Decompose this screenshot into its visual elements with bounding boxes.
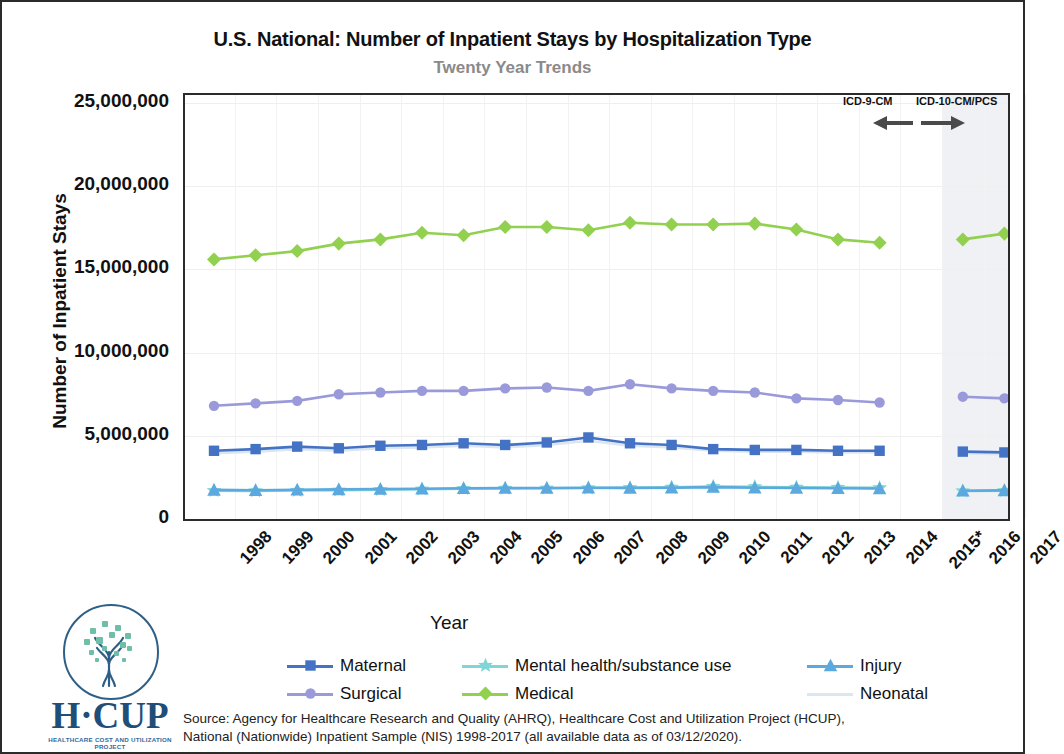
data-point-marker — [833, 446, 843, 456]
data-point-marker — [833, 395, 843, 405]
data-point-marker — [824, 659, 838, 672]
data-point-marker — [583, 386, 593, 396]
legend-glyph-diamond-icon — [477, 685, 494, 702]
data-point-marker — [458, 438, 468, 448]
legend-glyph-circle-icon — [302, 685, 319, 702]
chart-legend: MaternalMental health/substance useInjur… — [287, 655, 1017, 707]
data-point-marker — [750, 445, 760, 455]
series-line — [963, 397, 1005, 399]
legend-glyph-square-icon — [302, 657, 319, 674]
data-point-marker — [831, 232, 845, 246]
data-point-marker — [334, 389, 344, 399]
legend-item-surgical[interactable]: Surgical — [287, 683, 401, 705]
data-point-marker — [305, 660, 315, 670]
data-point-marker — [791, 445, 801, 455]
chart-subtitle: Twenty Year Trends — [0, 58, 1025, 78]
data-point-marker — [540, 220, 554, 234]
data-point-marker — [708, 386, 718, 396]
hcup-wordmark: H·CUP — [35, 696, 185, 736]
data-point-marker — [956, 232, 970, 246]
data-point-marker — [500, 440, 510, 450]
legend-label: Injury — [860, 656, 902, 676]
data-point-marker — [292, 441, 302, 451]
data-point-marker — [458, 386, 468, 396]
series-surgical — [209, 379, 1008, 411]
legend-item-injury[interactable]: Injury — [807, 655, 902, 677]
data-point-marker — [625, 379, 635, 389]
data-point-marker — [305, 688, 315, 698]
data-point-marker — [583, 432, 593, 442]
series-line — [963, 234, 1005, 240]
data-point-marker — [665, 217, 679, 231]
hcup-tagline: HEALTHCARE COST AND UTILIZATION PROJECT — [35, 736, 185, 750]
x-axis-title: Year — [430, 612, 468, 634]
data-point-marker — [250, 398, 260, 408]
data-point-marker — [209, 446, 219, 456]
source-note: Source: Agency for Healthcare Research a… — [183, 710, 1018, 746]
data-point-marker — [417, 386, 427, 396]
y-axis-tick-label: 20,000,000 — [0, 173, 169, 195]
legend-label: Mental health/substance use — [515, 656, 731, 676]
data-point-marker — [706, 217, 720, 231]
y-axis-tick-label: 5,000,000 — [0, 423, 169, 445]
legend-label: Maternal — [340, 656, 406, 676]
legend-marker-icon — [287, 685, 333, 703]
legend-marker-icon — [807, 657, 853, 675]
data-point-marker — [748, 217, 762, 231]
data-point-marker — [997, 227, 1008, 241]
data-point-marker — [958, 391, 968, 401]
data-point-marker — [999, 393, 1008, 403]
data-point-marker — [498, 220, 512, 234]
data-point-marker — [791, 393, 801, 403]
series-medical — [207, 216, 1008, 267]
data-point-marker — [873, 236, 887, 250]
legend-item-medical[interactable]: Medical — [462, 683, 574, 705]
legend-label: Surgical — [340, 684, 401, 704]
data-point-marker — [334, 443, 344, 453]
data-point-marker — [478, 658, 493, 672]
legend-label: Neonatal — [860, 684, 928, 704]
data-point-marker — [373, 232, 387, 246]
legend-label: Medical — [515, 684, 574, 704]
data-point-marker — [249, 248, 263, 262]
data-point-marker — [666, 440, 676, 450]
data-point-marker — [292, 396, 302, 406]
legend-item-maternal[interactable]: Maternal — [287, 655, 406, 677]
y-axis-tick-label: 0 — [0, 506, 169, 528]
legend-glyph-triangle-icon — [822, 657, 839, 674]
data-point-marker — [542, 437, 552, 447]
legend-item-mental-health-substance-use[interactable]: Mental health/substance use — [462, 655, 731, 677]
icd9-annotation-label: ICD-9-CM — [843, 95, 893, 107]
data-point-marker — [542, 382, 552, 392]
legend-line — [807, 693, 853, 696]
data-point-marker — [207, 252, 221, 266]
series-line — [963, 452, 1005, 453]
source-line-2: National (Nationwide) Inpatient Sample (… — [183, 728, 1018, 746]
plot-area — [183, 93, 1010, 521]
data-point-marker — [958, 446, 968, 456]
legend-marker-icon — [462, 685, 508, 703]
y-axis-tick-label: 15,000,000 — [0, 256, 169, 278]
tree-in-circle-icon — [63, 604, 159, 700]
data-point-marker — [415, 226, 429, 240]
data-point-marker — [999, 447, 1008, 457]
left-arrow-icon — [873, 116, 913, 130]
legend-marker-icon — [807, 685, 853, 703]
data-point-marker — [666, 383, 676, 393]
data-point-marker — [457, 228, 471, 242]
data-point-marker — [874, 446, 884, 456]
data-point-marker — [874, 397, 884, 407]
data-point-marker — [209, 401, 219, 411]
y-axis-tick-label: 10,000,000 — [0, 340, 169, 362]
legend-marker-icon — [287, 657, 333, 675]
legend-glyph-star-icon — [477, 657, 494, 674]
data-point-marker — [250, 444, 260, 454]
chart-title: U.S. National: Number of Inpatient Stays… — [0, 28, 1025, 51]
data-point-marker — [623, 216, 637, 230]
data-point-marker — [332, 237, 346, 251]
legend-item-neonatal[interactable]: Neonatal — [807, 683, 928, 705]
y-axis-title: Number of Inpatient Stays — [49, 101, 71, 521]
icd10-annotation-label: ICD-10-CM/PCS — [916, 95, 997, 107]
data-point-marker — [375, 441, 385, 451]
data-series-layer — [185, 95, 1008, 519]
